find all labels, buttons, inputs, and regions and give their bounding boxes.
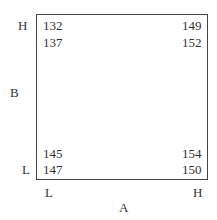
cell-ah-bh-2: 152 — [182, 36, 202, 50]
cell-al-bl-2: 147 — [43, 163, 63, 177]
b-axis-label: B — [10, 86, 19, 100]
cell-al-bl-1: 145 — [43, 147, 63, 161]
a-high-label: H — [193, 186, 202, 200]
a-low-label: L — [45, 186, 53, 200]
cell-al-bh-2: 137 — [43, 36, 63, 50]
cell-al-bh-1: 132 — [43, 19, 63, 33]
cell-ah-bl-2: 150 — [182, 163, 202, 177]
cell-ah-bh-1: 149 — [182, 19, 202, 33]
cell-ah-bl-1: 154 — [182, 147, 202, 161]
b-low-label: L — [22, 163, 30, 177]
b-high-label: H — [18, 19, 27, 33]
a-axis-label: A — [119, 201, 128, 215]
